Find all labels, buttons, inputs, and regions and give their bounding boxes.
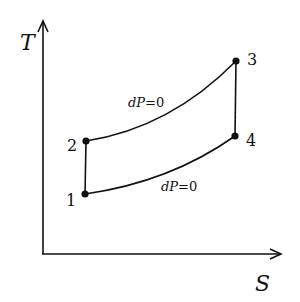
point-label-3: 3 <box>247 50 257 69</box>
point-label-4: 4 <box>246 131 256 150</box>
y-axis-label: T <box>20 30 37 55</box>
upper-process-eq: =0 <box>145 95 164 110</box>
process-1-4-isobar <box>85 136 235 194</box>
ts-diagram: T S 1 2 3 4 dP=0 dP=0 <box>0 0 300 302</box>
state-point-2 <box>82 137 89 144</box>
point-label-2: 2 <box>67 136 77 155</box>
process-1-2 <box>85 141 86 194</box>
upper-process-label: dP=0 <box>128 95 164 110</box>
point-label-1: 1 <box>66 191 76 210</box>
state-point-3 <box>232 57 239 64</box>
lower-process-var: dP <box>161 179 178 194</box>
state-point-1 <box>81 190 88 197</box>
lower-process-label: dP=0 <box>161 179 197 194</box>
process-3-4 <box>235 61 236 136</box>
state-point-4 <box>231 132 238 139</box>
state-points <box>81 57 239 197</box>
cycle <box>85 61 236 194</box>
x-axis-label: S <box>255 271 270 296</box>
lower-process-eq: =0 <box>178 179 197 194</box>
upper-process-var: dP <box>128 95 145 110</box>
